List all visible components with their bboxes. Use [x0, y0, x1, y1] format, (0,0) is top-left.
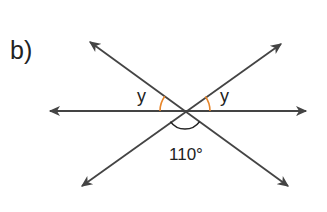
angle-label-y-left: y — [137, 86, 146, 107]
angle-arc-y-right — [205, 97, 210, 112]
angle-label-110: 110° — [169, 145, 203, 165]
angle-arc-110 — [170, 122, 199, 129]
part-label: b) — [10, 36, 32, 65]
diagram-svg — [0, 0, 327, 212]
angle-label-y-right: y — [220, 86, 229, 107]
angle-diagram: b) y y 110° — [0, 0, 327, 212]
angle-arc-y-left — [160, 96, 165, 111]
